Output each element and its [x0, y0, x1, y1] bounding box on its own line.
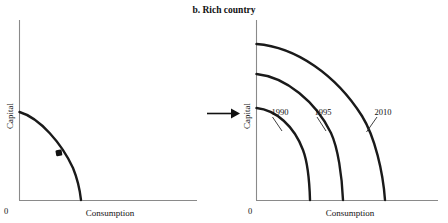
- right-x-axis-label: Consumption: [326, 208, 375, 218]
- figure-canvas: b. Rich country Capital Consumption 0: [0, 0, 448, 223]
- right-origin-label: 0: [248, 206, 252, 216]
- left-operating-point-marker: [55, 149, 62, 156]
- right-y-axis-label: Capital: [242, 103, 252, 129]
- left-y-axis-label: Capital: [5, 103, 15, 129]
- transition-arrow: [207, 109, 240, 119]
- poor-country-panel: Capital Consumption 0: [4, 20, 197, 218]
- rich-country-panel: 1990 1995 2010 Capital Consumption 0: [242, 20, 439, 218]
- left-ppf-curve: [20, 112, 82, 200]
- curve-1990: [257, 108, 311, 200]
- leader-line-2010: [367, 117, 378, 132]
- leader-line-1995: [317, 117, 326, 131]
- left-origin-label: 0: [4, 206, 8, 216]
- curve-label-1990: 1990: [272, 107, 289, 117]
- figure-title: b. Rich country: [192, 5, 255, 15]
- figure-container: b. Rich country Capital Consumption 0: [0, 0, 448, 223]
- curve-label-1995: 1995: [315, 107, 332, 117]
- curve-label-2010: 2010: [375, 107, 392, 117]
- left-x-axis-label: Consumption: [86, 208, 135, 218]
- transition-arrow-head: [231, 109, 240, 119]
- curve-1995: [257, 74, 344, 200]
